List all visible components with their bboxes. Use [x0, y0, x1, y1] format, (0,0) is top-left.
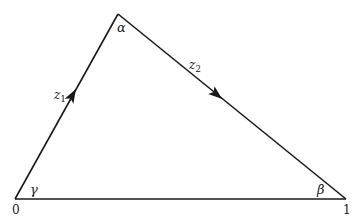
arrow-up-icon	[65, 87, 81, 104]
angle-beta: β	[316, 182, 325, 197]
edge-z1	[15, 14, 118, 199]
vertex-label-1: 1	[343, 203, 351, 217]
edge-label-z2: z2	[188, 58, 201, 74]
angle-alpha: α	[117, 20, 126, 35]
angle-gamma: γ	[30, 182, 38, 197]
triangle-diagram: α γ β 0 1 z1 z2	[0, 0, 360, 224]
vertex-label-0: 0	[12, 203, 20, 217]
edge-label-z1: z1	[53, 88, 66, 104]
edge-z2	[118, 14, 346, 199]
